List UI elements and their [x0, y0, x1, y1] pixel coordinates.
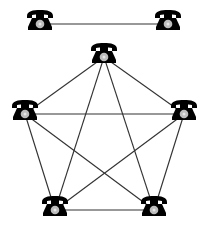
telephone-icon — [27, 10, 53, 30]
connection-line-P1-P5 — [104, 57, 154, 210]
telephone-icon — [141, 196, 167, 216]
telephone-icon — [155, 10, 181, 30]
connection-line-P2-P5 — [25, 114, 154, 210]
telephone-icon — [171, 100, 197, 120]
telephone-icon — [91, 43, 117, 63]
telephone-nodes — [12, 10, 197, 216]
connection-line-P3-P4 — [55, 114, 184, 210]
connection-line-P3-P5 — [154, 114, 184, 210]
connection-line-P1-P4 — [55, 57, 104, 210]
connection-line-P2-P4 — [25, 114, 55, 210]
telephone-network-diagram — [0, 0, 209, 232]
telephone-icon — [12, 100, 38, 120]
telephone-icon — [42, 196, 68, 216]
